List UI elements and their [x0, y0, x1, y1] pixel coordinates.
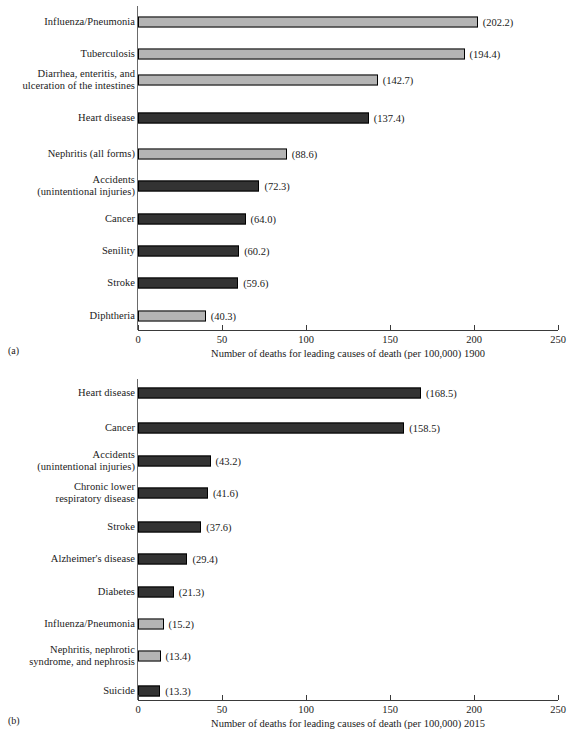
x-axis-tick — [222, 325, 223, 330]
bar — [138, 554, 187, 565]
category-label: Diphtheria — [0, 310, 135, 322]
category-label: Nephritis (all forms) — [0, 148, 135, 160]
bar-row: Stroke(59.6) — [0, 275, 587, 291]
bar-container: (41.6) — [138, 488, 208, 499]
bar — [138, 149, 287, 160]
bar-container: (194.4) — [138, 49, 465, 60]
bar — [138, 587, 174, 598]
bar — [138, 181, 259, 192]
x-axis-tick-label: 150 — [382, 704, 398, 715]
bar — [138, 311, 206, 322]
x-axis-tick-label: 100 — [298, 704, 314, 715]
bar-value-label: (40.3) — [211, 311, 236, 322]
bar — [138, 113, 369, 124]
bar-row: Senility(60.2) — [0, 243, 587, 259]
bar-value-label: (158.5) — [409, 423, 440, 434]
x-axis-tick — [558, 695, 559, 700]
bar — [138, 278, 238, 289]
bar — [138, 619, 164, 630]
bar-value-label: (15.2) — [169, 619, 194, 630]
x-axis-tick — [222, 695, 223, 700]
x-axis-tick-label: 150 — [382, 334, 398, 345]
bar-value-label: (37.6) — [206, 522, 231, 533]
x-axis-tick — [390, 325, 391, 330]
bar-value-label: (41.6) — [213, 488, 238, 499]
x-axis-tick-label: 250 — [550, 704, 566, 715]
category-label: Accidents (unintentional injuries) — [0, 449, 135, 472]
x-axis-tick-label: 100 — [298, 334, 314, 345]
x-axis-tick — [138, 325, 139, 330]
category-label: Cancer — [0, 213, 135, 225]
bar-container: (59.6) — [138, 278, 238, 289]
bar-container: (64.0) — [138, 214, 246, 225]
bar-value-label: (43.2) — [216, 456, 241, 467]
category-label: Heart disease — [0, 387, 135, 399]
bar-container: (72.3) — [138, 181, 259, 192]
x-axis-line-b: 050100150200250 — [138, 700, 558, 701]
x-axis-tick — [306, 325, 307, 330]
bar — [138, 488, 208, 499]
x-axis-tick — [474, 325, 475, 330]
category-label: Cancer — [0, 422, 135, 434]
x-axis-tick-label: 200 — [466, 334, 482, 345]
x-axis-tick-label: 50 — [217, 334, 228, 345]
x-axis-title-a: Number of deaths for leading causes of d… — [138, 348, 558, 359]
x-axis-tick-label: 250 — [550, 334, 566, 345]
category-label: Accidents (unintentional injuries) — [0, 174, 135, 197]
bar-value-label: (142.7) — [383, 75, 414, 86]
bar-value-label: (29.4) — [192, 554, 217, 565]
bar-value-label: (202.2) — [483, 17, 514, 28]
category-label: Stroke — [0, 277, 135, 289]
bar-container: (43.2) — [138, 456, 211, 467]
bar-container: (158.5) — [138, 423, 404, 434]
x-axis-title-b: Number of deaths for leading causes of d… — [138, 718, 558, 729]
panel-label-a: (a) — [8, 345, 19, 356]
bar-row: Nephritis (all forms)(88.6) — [0, 146, 587, 162]
bar — [138, 522, 201, 533]
bar-value-label: (60.2) — [244, 246, 269, 257]
bar-container: (142.7) — [138, 75, 378, 86]
category-label: Diarrhea, enteritis, and ulceration of t… — [0, 68, 135, 91]
category-label: Heart disease — [0, 112, 135, 124]
bar-row: Tuberculosis(194.4) — [0, 46, 587, 62]
bar-container: (168.5) — [138, 388, 421, 399]
bar-container: (202.2) — [138, 17, 478, 28]
bar — [138, 246, 239, 257]
x-axis-line-a: 050100150200250 — [138, 330, 558, 331]
category-label: Suicide — [0, 685, 135, 697]
bar-value-label: (168.5) — [426, 388, 457, 399]
category-label: Influenza/Pneumonia — [0, 16, 135, 28]
bar — [138, 456, 211, 467]
bar-value-label: (137.4) — [374, 113, 405, 124]
bar-container: (29.4) — [138, 554, 187, 565]
x-axis-tick — [390, 695, 391, 700]
bar-container: (21.3) — [138, 587, 174, 598]
category-label: Chronic lower respiratory disease — [0, 481, 135, 504]
bar-row: Cancer(64.0) — [0, 211, 587, 227]
bar-row: Accidents (unintentional injuries)(72.3) — [0, 178, 587, 194]
bar-container: (60.2) — [138, 246, 239, 257]
bar-row: Influenza/Pneumonia(202.2) — [0, 14, 587, 30]
bar-row: Alzheimer's disease(29.4) — [0, 551, 587, 567]
bar-container: (88.6) — [138, 149, 287, 160]
bar-container: (137.4) — [138, 113, 369, 124]
bar-value-label: (13.3) — [165, 686, 190, 697]
bar-row: Heart disease(168.5) — [0, 385, 587, 401]
chart-panel-b: Heart disease(168.5)Cancer(158.5)Acciden… — [0, 373, 587, 746]
bar — [138, 651, 161, 662]
x-axis-tick — [558, 325, 559, 330]
bar — [138, 388, 421, 399]
category-label: Alzheimer's disease — [0, 553, 135, 565]
bar-container: (37.6) — [138, 522, 201, 533]
bar-row: Stroke(37.6) — [0, 519, 587, 535]
category-label: Nephritis, nephrotic syndrome, and nephr… — [0, 644, 135, 667]
category-label: Tuberculosis — [0, 48, 135, 60]
x-axis-tick-label: 200 — [466, 704, 482, 715]
bar-row: Heart disease(137.4) — [0, 110, 587, 126]
x-axis-tick — [306, 695, 307, 700]
x-axis-tick-label: 0 — [135, 704, 140, 715]
bar-value-label: (21.3) — [179, 587, 204, 598]
bar-value-label: (72.3) — [264, 181, 289, 192]
category-label: Stroke — [0, 521, 135, 533]
x-axis-tick-label: 50 — [217, 704, 228, 715]
